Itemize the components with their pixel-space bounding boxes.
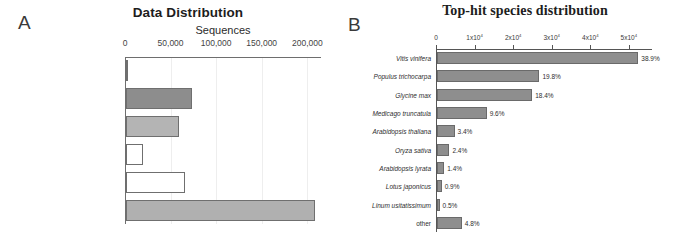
panel-b-tick-mark [475, 45, 476, 49]
panel-a-tick-label: 150,000 [246, 38, 277, 48]
panel-b-category-label: other [416, 219, 431, 226]
panel-a-bar [126, 116, 179, 137]
panel-b-plot-area: 01x1042x1043x1044x1045x104 Vitis vinifer… [436, 49, 652, 232]
panel-b-category-label: Oryza sativa [395, 146, 431, 153]
panel-b-tick-mark [590, 45, 591, 49]
panel-b-category-label: Lotus japonicus [386, 183, 431, 190]
panel-b-tick-label: 2x104 [505, 34, 521, 41]
panel-b-bar [437, 199, 440, 211]
panel-b-tick-mark [513, 45, 514, 49]
panel-b-percent-label: 3.4% [458, 128, 473, 135]
panel-a-tick-label: 50,000 [158, 38, 184, 48]
panel-b-percent-label: 0.9% [445, 183, 460, 190]
panel-b-bar [437, 107, 487, 119]
panel-b-bar [437, 162, 444, 174]
panel-b-tick-label: 5x104 [621, 34, 637, 41]
panel-b-category-label: Glycine max [395, 91, 431, 98]
panel-b-bar [437, 125, 455, 137]
panel-b-tick-label: 3x104 [543, 34, 559, 41]
panel-a-bar [126, 60, 128, 81]
panel-b-tick-label: 4x104 [582, 34, 598, 41]
panel-b-tick-label: 1x104 [466, 34, 482, 41]
panel-b-bar [437, 70, 539, 82]
panel-b-letter: B [348, 14, 361, 36]
figure-container: A Data Distribution Sequences 050,000100… [0, 0, 679, 247]
panel-b-category-label: Populus trichocarpa [374, 73, 431, 80]
panel-a: A Data Distribution Sequences 050,000100… [0, 0, 340, 247]
panel-b-percent-label: 2.4% [452, 146, 467, 153]
panel-b-category-label: Medicago truncatula [372, 110, 431, 117]
panel-a-title: Data Distribution [88, 5, 288, 20]
panel-b-percent-label: 4.8% [465, 219, 480, 226]
panel-b-tick-mark [629, 45, 630, 49]
panel-b-x-axis [436, 49, 652, 50]
panel-a-plot-area [125, 57, 321, 224]
panel-b-bar [437, 144, 449, 156]
panel-b-tick-mark [436, 45, 437, 49]
panel-a-tick-label: 200,000 [292, 38, 323, 48]
panel-b-percent-label: 1.4% [447, 164, 462, 171]
panel-b-tick-label: 0 [434, 34, 438, 41]
panel-a-bar [126, 144, 143, 165]
panel-b-category-label: Arabidopsis thaliana [372, 128, 431, 135]
panel-b-percent-label: 38.9% [641, 55, 659, 62]
panel-a-bar [126, 88, 192, 109]
panel-b-tick-mark [552, 45, 553, 49]
panel-a-bar [126, 172, 185, 193]
panel-b-bar [437, 217, 462, 229]
panel-b-percent-label: 18.4% [535, 91, 553, 98]
panel-b-percent-label: 9.6% [490, 110, 505, 117]
panel-a-tick-label: 100,000 [201, 38, 232, 48]
panel-a-bar [126, 200, 315, 221]
panel-b-percent-label: 19.8% [542, 73, 560, 80]
panel-a-letter: A [18, 12, 31, 34]
panel-b-category-label: Vitis vinifera [396, 55, 431, 62]
panel-a-x-axis [125, 57, 321, 58]
panel-a-tick-label: 0 [123, 38, 128, 48]
panel-b-category-label: Arabidopsis lyrata [379, 164, 431, 171]
panel-b-percent-label: 0.5% [443, 201, 458, 208]
panel-b-category-label: Linum usitatissimum [372, 201, 431, 208]
panel-b-bar [437, 180, 442, 192]
panel-b: B Top-hit species distribution 01x1042x1… [340, 0, 679, 247]
panel-b-title: Top-hit species distribution [400, 3, 650, 19]
panel-a-axis-title: Sequences [125, 24, 321, 36]
panel-b-bar [437, 89, 532, 101]
panel-b-bar [437, 52, 638, 64]
